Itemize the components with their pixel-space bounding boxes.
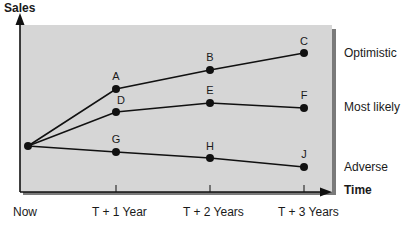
scenario-label-most-likely: Most likely <box>344 100 400 114</box>
point-now <box>24 142 32 150</box>
point-b <box>206 66 214 74</box>
x-tick-label-t2: T + 2 Years <box>183 205 244 219</box>
point-a <box>112 85 120 93</box>
point-label-f: F <box>301 89 308 101</box>
y-axis-title: Sales <box>4 1 35 15</box>
x-tick-label-t3: T + 3 Years <box>278 205 339 219</box>
point-label-a: A <box>112 70 120 82</box>
point-label-e: E <box>206 84 213 96</box>
scenario-label-adverse: Adverse <box>344 160 388 174</box>
point-label-j: J <box>301 148 307 160</box>
point-h <box>206 154 214 162</box>
point-c <box>300 49 308 57</box>
x-tick-label-now: Now <box>13 205 37 219</box>
point-label-d: D <box>117 94 125 106</box>
point-label-g: G <box>112 133 121 145</box>
point-g <box>112 148 120 156</box>
point-label-b: B <box>206 51 213 63</box>
x-axis-title: Time <box>344 183 372 197</box>
point-label-h: H <box>206 140 214 152</box>
x-tick-label-t1: T + 1 Year <box>92 205 147 219</box>
point-e <box>206 99 214 107</box>
point-label-c: C <box>300 35 308 47</box>
scenario-label-optimistic: Optimistic <box>344 46 397 60</box>
point-f <box>300 104 308 112</box>
point-d <box>112 108 120 116</box>
plot-area <box>20 25 332 192</box>
point-j <box>300 163 308 171</box>
